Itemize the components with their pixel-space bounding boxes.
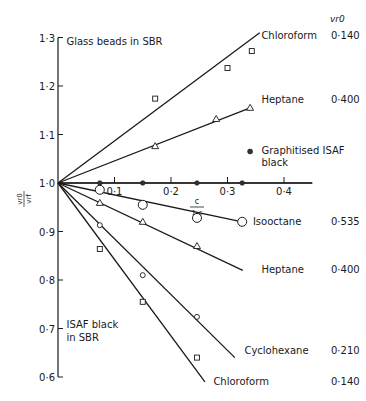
series-line [58,183,205,382]
square-marker [153,96,158,101]
y-tick-label: 0·6 [39,372,55,383]
y-tick-label: 1·0 [39,178,55,189]
y-tick-label: 1·2 [39,81,55,92]
y-tick-label: 0·9 [39,227,55,238]
series-label: Graphitised ISAF [261,145,344,156]
square-marker [140,299,145,304]
chart: 1·31·21·11·00·90·80·70·60·10·20·30·4c1-c… [0,0,366,401]
series-label: Isooctane [253,216,301,227]
series-label: Chloroform [213,376,269,387]
vr0-value: 0·140 [331,30,360,41]
square-marker [225,66,230,71]
small-circle-marker [97,223,102,228]
vr0-value: 0·400 [331,264,360,275]
triangle-marker [213,115,220,121]
vr0-value: 0·210 [331,345,360,356]
vr0-value: 0·140 [331,376,360,387]
y-axis-label: vr0vrf [16,191,33,207]
vr0-column-header: vr0 [330,14,345,24]
square-marker [97,246,102,251]
y-axis-label-numerator: vr0 [16,193,24,204]
series-line [58,183,243,270]
square-marker [249,49,254,54]
annotation: in SBR [66,332,99,343]
graphitised-dot-marker [240,181,245,186]
graphitised-dot-marker [195,181,200,186]
y-tick-label: 0·8 [39,275,55,286]
series-line [58,33,260,183]
series-label: black [261,157,288,168]
x-tick-label: 0·2 [163,186,179,197]
x-axis-label-numerator: c [195,197,199,206]
annotation: Glass beads in SBR [66,36,162,47]
large-circle-marker [192,213,201,222]
vr0-value: 0·400 [331,94,360,105]
x-tick-label: 0·4 [276,186,292,197]
series-label: Heptane [261,94,304,105]
y-tick-label: 1·1 [39,130,55,141]
large-circle-marker [138,200,147,209]
y-axis-label-denominator: vrf [25,194,33,204]
triangle-marker [247,104,254,110]
series-label: Cyclohexane [244,345,308,356]
y-tick-label: 0·7 [39,324,55,335]
graphitised-dot-marker [98,181,103,186]
square-marker [194,355,199,360]
graphitised-legend-marker [248,149,253,154]
small-circle-marker [194,314,199,319]
series-label: Heptane [261,264,304,275]
graphitised-dot-marker [140,181,145,186]
large-circle-marker [238,217,247,226]
series-line [58,183,242,222]
triangle-marker [96,199,103,205]
small-circle-marker [140,273,145,278]
triangle-marker [193,243,200,249]
annotation: ISAF black [66,319,118,330]
series-label: Chloroform [261,30,317,41]
labels: vr0Glass beads in SBRISAF blackin SBRChl… [66,14,359,387]
axes: 1·31·21·11·00·90·80·70·60·10·20·30·4c1-c… [16,33,312,384]
large-circle-marker [95,185,104,194]
vr0-value: 0·535 [331,216,360,227]
x-tick-label: 0·3 [220,186,236,197]
y-tick-label: 1·3 [39,33,55,44]
